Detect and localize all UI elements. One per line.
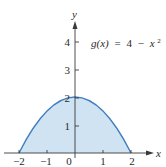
x-axis-label: x xyxy=(155,147,161,159)
x-tick-label: −2 xyxy=(13,155,25,167)
y-tick-label: 1 xyxy=(65,120,71,132)
graph-plot: −2 −1 0 1 2 1 2 3 4 x y g(x) = 4 − x 2 xyxy=(0,0,166,167)
x-tick-label: 0 xyxy=(66,155,72,167)
x-tick-label: 1 xyxy=(100,155,106,167)
x-axis-arrow-icon xyxy=(146,151,154,156)
y-tick-label: 3 xyxy=(65,64,71,76)
x-tick-label: 2 xyxy=(129,155,135,167)
x-tick-label: −1 xyxy=(40,155,52,167)
y-axis-label: y xyxy=(71,8,77,20)
y-tick-label: 4 xyxy=(65,36,71,48)
y-axis-arrow-icon xyxy=(73,21,78,29)
function-label: g(x) = 4 − x 2 xyxy=(91,37,161,50)
y-tick-label: 2 xyxy=(65,92,71,104)
